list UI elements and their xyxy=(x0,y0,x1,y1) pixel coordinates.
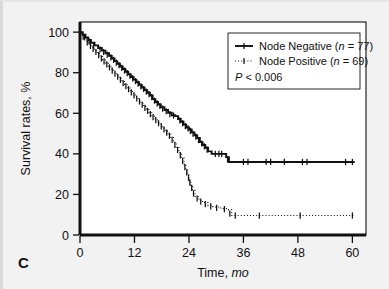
y-tick-label: 40 xyxy=(55,147,69,161)
x-axis-title: Time, mo xyxy=(197,266,249,280)
x-tick-label: 12 xyxy=(128,246,142,260)
figure-panel-c: 02040608010001224364860Survival rates, %… xyxy=(0,0,389,289)
x-tick-label: 60 xyxy=(345,246,359,260)
x-tick-label: 36 xyxy=(236,246,250,260)
legend-label: Node Positive (n = 69) xyxy=(259,55,368,67)
survival-chart: 02040608010001224364860Survival rates, %… xyxy=(0,0,389,289)
y-tick-label: 20 xyxy=(55,188,69,202)
y-tick-label: 60 xyxy=(55,107,69,121)
x-tick-label: 24 xyxy=(182,246,196,260)
legend-label: Node Negative (n = 77) xyxy=(259,40,373,52)
y-axis-title: Survival rates, % xyxy=(19,82,33,176)
x-tick-label: 48 xyxy=(291,246,305,260)
panel-label: C xyxy=(18,254,29,271)
y-tick-label: 80 xyxy=(55,66,69,80)
y-tick-label: 0 xyxy=(62,229,69,243)
x-tick-label: 0 xyxy=(77,246,84,260)
y-tick-label: 100 xyxy=(48,26,69,40)
p-value-annotation: P < 0.006 xyxy=(235,71,282,83)
